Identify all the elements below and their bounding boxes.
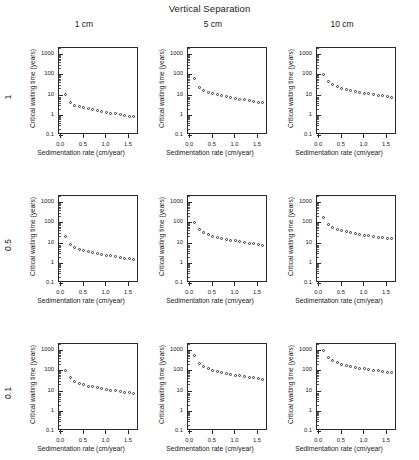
data-point [377,94,380,97]
data-point [100,387,103,390]
y-axis-label-wrap: Critical waiting time (years) [14,195,26,282]
data-point [390,237,393,240]
plot-panel-r1c1: Critical waiting time (years)10001001010… [143,189,273,312]
y-axis-ticks: 10001001010.1 [155,343,185,430]
x-axis-label: Sedimentation rate (cm/year) [18,149,144,156]
y-tick-label: 1000 [41,346,54,352]
x-axis-label: Sedimentation rate (cm/year) [147,297,273,304]
data-point [331,359,334,362]
x-tick-major [60,430,61,434]
plot-frame [316,47,396,134]
x-tick-label: 1.5 [253,436,261,444]
x-tick-major [60,282,61,286]
x-axis-tick-labels: 0.00.51.01.5 [177,288,277,297]
plot-frame [58,343,138,430]
data-point [234,374,237,377]
data-point [229,373,232,376]
data-point [91,385,94,388]
data-points-layer [317,344,395,429]
data-point [386,95,389,98]
x-tick-major [128,430,129,434]
x-axis-label: Sedimentation rate (cm/year) [147,445,273,452]
data-point [225,95,228,98]
y-tick-label: 10 [306,91,312,97]
x-tick-label: 0.0 [56,288,64,296]
y-tick-label: 1000 [170,50,183,56]
data-point [372,369,375,372]
data-point [358,91,361,94]
data-points-layer [188,344,266,429]
y-axis-ticks: 10001001010.1 [26,195,56,282]
data-point [96,252,99,255]
data-point [207,233,210,236]
y-tick-label: 10 [177,91,183,97]
x-axis-tick-labels: 0.00.51.01.5 [306,140,406,149]
row-header-1: 1 [3,88,13,106]
data-point [193,221,196,224]
x-tick-major [189,430,190,434]
data-point [381,94,384,97]
data-point [327,80,330,83]
data-point [345,230,348,233]
x-tick-label: 0.0 [185,288,193,296]
data-point [119,256,122,259]
data-point [358,233,361,236]
x-tick-label: 0.5 [208,436,216,444]
y-axis-ticks: 10001001010.1 [284,47,314,134]
x-tick-major [363,282,364,286]
x-tick-label: 1.0 [359,140,367,148]
data-point [367,368,370,371]
data-point [100,253,103,256]
data-point [87,107,90,110]
y-axis-ticks: 10001001010.1 [26,343,56,430]
data-point [340,229,343,232]
plot-panel-r2c1: Critical waiting time (years)10001001010… [143,337,273,460]
data-point [211,369,214,372]
data-point [202,231,205,234]
plot-panel-r1c2: Critical waiting time (years)10001001010… [272,189,402,312]
x-tick-label: 0.0 [314,288,322,296]
y-tick-label: 1 [51,111,54,117]
data-point [345,364,348,367]
x-tick-major [128,282,129,286]
data-point [345,88,348,91]
x-tick-major [212,134,213,138]
row-header-0-5: 0.5 [3,236,13,254]
y-axis-ticks: 10001001010.1 [155,47,185,134]
data-point [78,105,81,108]
x-tick-label: 0.5 [79,140,87,148]
data-point [327,223,330,226]
x-tick-label: 1.5 [124,140,132,148]
data-point [243,241,246,244]
data-point [73,380,76,383]
plot-panel-r2c0: Critical waiting time (years)10001001010… [14,337,144,460]
plot-frame [316,195,396,282]
plot-panel-r0c1: Critical waiting time (years)10001001010… [143,41,273,164]
data-point [211,92,214,95]
data-point [69,243,72,246]
x-tick-major [318,430,319,434]
x-axis-tick-labels: 0.00.51.01.5 [48,140,148,149]
x-axis-label: Sedimentation rate (cm/year) [18,445,144,452]
y-tick-label: 10 [177,239,183,245]
data-point [248,242,251,245]
x-tick-major [189,282,190,286]
data-point [119,390,122,393]
data-points-layer [317,48,395,133]
data-point [82,106,85,109]
data-point [198,228,201,231]
y-tick-label: 1000 [41,198,54,204]
x-tick-label: 0.0 [314,436,322,444]
x-axis-label: Sedimentation rate (cm/year) [276,149,402,156]
data-point [91,251,94,254]
data-point [207,367,210,370]
y-tick-label: 0.1 [175,279,183,285]
data-point [82,383,85,386]
data-point [132,115,135,118]
plot-frame [187,343,267,430]
x-tick-major [341,430,342,434]
x-tick-major [257,430,258,434]
y-axis-label-wrap: Critical waiting time (years) [14,343,26,430]
data-point [202,365,205,368]
data-point [211,235,214,238]
